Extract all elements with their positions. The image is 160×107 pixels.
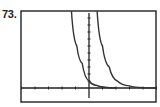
graphing-calculator-plot — [0, 0, 160, 107]
